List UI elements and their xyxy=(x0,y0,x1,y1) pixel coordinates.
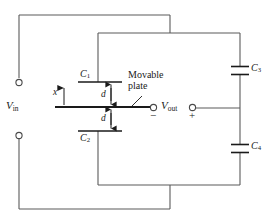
gap-bottom-label: d xyxy=(101,114,106,124)
movable-plate-annotation-line1: Movable xyxy=(128,70,164,81)
capacitor-c3-symbol xyxy=(231,67,249,75)
capacitor-c3-label: C3 xyxy=(251,63,261,74)
vin-negative-terminal xyxy=(16,132,22,138)
vout-plus-sign: + xyxy=(189,110,195,122)
circuit-diagram-figure: C1 C2 C3 C4 Vin Vout − + d d x Movable p… xyxy=(0,0,275,224)
vin-positive-terminal xyxy=(16,79,22,85)
capacitor-c2-label: C2 xyxy=(80,133,90,144)
gap-top-label: d xyxy=(101,90,106,100)
capacitor-c1-label: C1 xyxy=(80,69,90,80)
vout-minus-sign: − xyxy=(150,110,156,122)
displacement-x-label: x xyxy=(53,88,57,98)
movable-plate-annotation: Movable plate xyxy=(128,70,164,91)
capacitor-c4-label: C4 xyxy=(251,141,261,152)
movable-plate-annotation-line2: plate xyxy=(128,81,164,92)
capacitor-c4-symbol xyxy=(231,145,249,153)
circuit-schematic-svg xyxy=(0,0,275,224)
vin-label: Vin xyxy=(6,100,19,112)
vout-label: Vout xyxy=(161,100,177,112)
outer-circuit-loop xyxy=(19,15,170,209)
